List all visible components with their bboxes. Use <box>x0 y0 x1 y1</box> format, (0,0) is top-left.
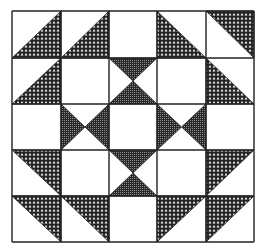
triangle-patch <box>12 196 61 242</box>
bowtie-patch <box>157 104 182 150</box>
hourglass-patch <box>109 150 157 173</box>
triangle-patch <box>12 11 61 58</box>
triangle-patch <box>157 196 206 242</box>
triangle-patch <box>61 196 109 242</box>
bowtie-patch <box>85 104 109 150</box>
triangle-patch <box>12 58 61 104</box>
triangle-patch <box>61 11 109 58</box>
bowtie-patch <box>182 104 207 150</box>
quilt-block-diagram <box>0 0 263 251</box>
triangle-patch <box>206 150 254 196</box>
triangle-patch <box>157 11 206 58</box>
bowtie-patch <box>61 104 85 150</box>
triangle-patch <box>206 196 254 242</box>
triangle-patch <box>206 11 254 58</box>
triangle-patch <box>12 150 61 196</box>
hourglass-patch <box>109 58 157 81</box>
hourglass-patch <box>109 81 157 104</box>
quilt-cells <box>12 11 254 242</box>
hourglass-patch <box>109 173 157 196</box>
triangle-patch <box>206 58 254 104</box>
